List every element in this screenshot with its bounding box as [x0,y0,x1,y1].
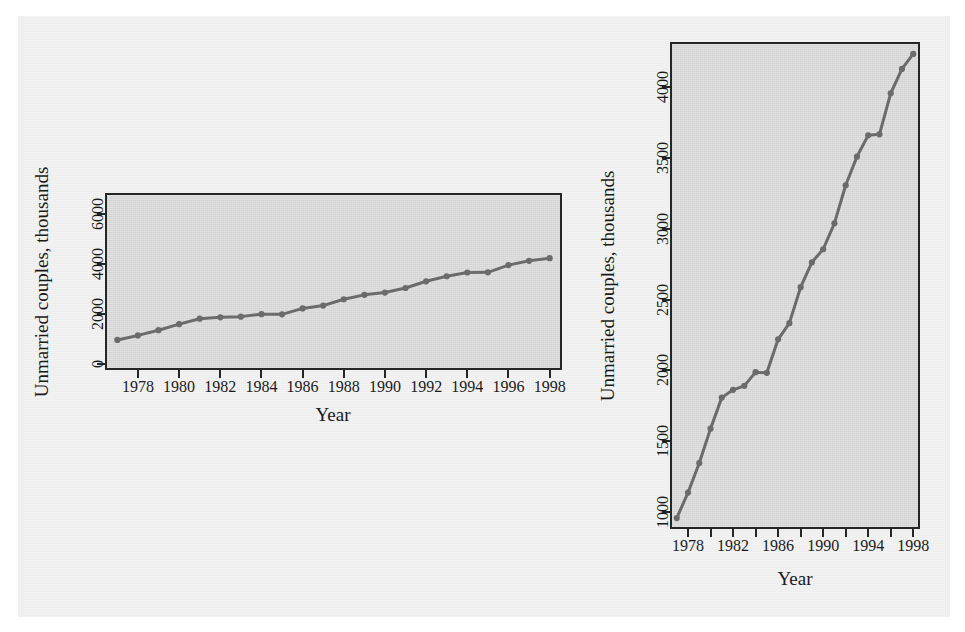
x-tick [710,529,712,537]
x-tick [687,529,689,537]
y-tick-label: 3500 [654,142,672,174]
x-tick-label: 1998 [897,537,929,555]
y-tick-label: 2500 [654,284,672,316]
y-tick-label: 3000 [654,213,672,245]
y-tick-label: 1000 [654,496,672,528]
x-tick [755,529,757,537]
x-tick [822,529,824,537]
x-tick-label: 1990 [807,537,839,555]
y-axis-title-right: Unmarried couples, thousands [597,171,619,402]
x-tick [912,529,914,537]
x-tick-label: 1982 [717,537,749,555]
x-tick [845,529,847,537]
x-tick-label: 1978 [672,537,704,555]
y-tick-label: 1500 [654,425,672,457]
figure-canvas: 1978198019821984198619881990199219941996… [0,0,965,632]
x-tick-label: 1986 [762,537,794,555]
y-tick-label: 4000 [654,71,672,103]
x-tick [732,529,734,537]
x-axis-title-right: Year [778,568,813,590]
x-tick [777,529,779,537]
x-tick [867,529,869,537]
x-tick-label: 1994 [852,537,884,555]
x-tick [890,529,892,537]
x-tick [800,529,802,537]
y-tick-label: 2000 [654,354,672,386]
